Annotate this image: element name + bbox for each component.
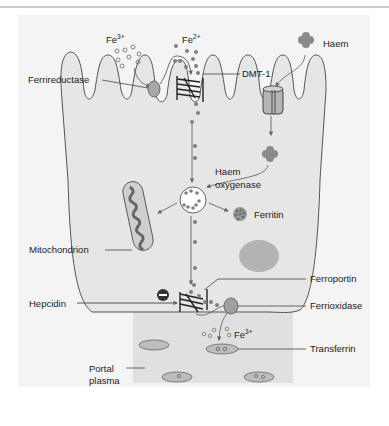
mitochondrion-label: Mitochondrion <box>29 244 89 255</box>
ferroportin-label: Ferroportin <box>310 273 356 284</box>
ferrioxidase-label: Ferrioxidase <box>310 300 362 311</box>
iron-absorption-diagram: Fe3+ Ferrireductase Fe2+ DMT-1 Haem <box>0 0 389 426</box>
haem-label: Haem <box>323 38 348 49</box>
dmt1-label: DMT-1 <box>242 68 271 79</box>
portal-plasma-label-1: Portal <box>89 363 114 374</box>
haem-oxygenase-label-1: Haem <box>215 166 240 177</box>
plasma-protein-3 <box>244 372 274 382</box>
ferrioxidase-protein <box>224 298 238 314</box>
ferritin-label: Ferritin <box>254 209 284 220</box>
haem-oxygenase-label-2: oxygenase <box>215 179 261 190</box>
haem-transporter <box>263 86 283 114</box>
hepcidin-label: Hepcidin <box>29 298 66 309</box>
hepcidin-minus-sign <box>159 294 167 296</box>
plasma-protein-1 <box>139 340 169 350</box>
transferrin-label: Transferrin <box>310 343 356 354</box>
nucleus <box>239 240 279 272</box>
plasma-protein-2 <box>162 372 192 382</box>
portal-plasma-label-2: plasma <box>89 375 120 386</box>
ferritin-icon <box>233 207 247 221</box>
ferrireductase-label: Ferrireductase <box>28 74 89 85</box>
labile-iron-pool <box>180 187 206 213</box>
transferrin-protein <box>206 344 238 354</box>
ferrireductase-protein <box>148 81 160 97</box>
